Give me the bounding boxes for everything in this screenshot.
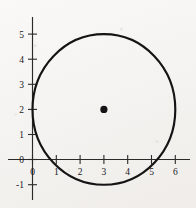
center-point xyxy=(100,106,107,113)
y-tick-label-2: 2 xyxy=(19,105,24,115)
x-axis-tick-labels: 0 1 2 3 4 5 6 xyxy=(30,167,178,177)
circle-graph-figure: 0 1 2 3 4 5 6 5 4 3 2 1 0 -1 xyxy=(0,0,196,208)
y-tick-label-1: 1 xyxy=(19,130,24,140)
x-tick-label-0: 0 xyxy=(30,167,35,177)
y-tick-label-0: 0 xyxy=(19,155,24,165)
x-tick-label-5: 5 xyxy=(149,167,154,177)
y-tick-label-5: 5 xyxy=(19,30,24,40)
x-tick-label-6: 6 xyxy=(173,167,178,177)
axis-lines xyxy=(8,17,190,200)
x-tick-label-2: 2 xyxy=(78,167,83,177)
y-axis-tick-labels: 5 4 3 2 1 0 -1 xyxy=(16,30,24,191)
x-tick-label-3: 3 xyxy=(102,167,107,177)
x-tick-label-4: 4 xyxy=(125,167,130,177)
y-tick-label-3: 3 xyxy=(19,80,24,90)
y-tick-label-4: 4 xyxy=(19,55,24,65)
y-tick-label-neg1: -1 xyxy=(16,180,24,190)
plot-area: 0 1 2 3 4 5 6 5 4 3 2 1 0 -1 xyxy=(0,0,196,208)
